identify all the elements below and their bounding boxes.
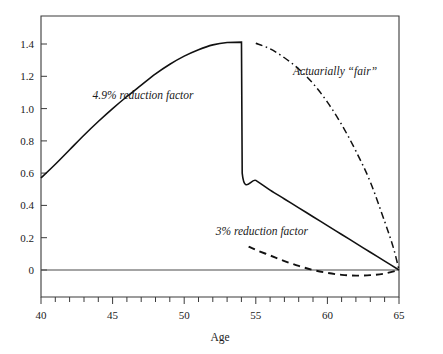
y-tick-label: 1.2 (20, 70, 34, 82)
line-chart: 1.4 1.2 1.0 0.8 0.6 0.4 0.2 0 (0, 0, 443, 354)
x-tick-label: 60 (322, 309, 334, 321)
chart-background (0, 0, 443, 354)
x-tick-label: 45 (107, 309, 119, 321)
x-tick-label: 65 (394, 309, 406, 321)
x-tick-label: 50 (179, 309, 191, 321)
chart-container: 1.4 1.2 1.0 0.8 0.6 0.4 0.2 0 (0, 0, 443, 354)
y-tick-label: 0 (29, 264, 35, 276)
annotation-label-reduction-3: 3% reduction factor (215, 225, 309, 238)
y-tick-label: 0.2 (20, 232, 34, 244)
y-tick-label: 0.4 (20, 199, 34, 211)
x-tick-label: 55 (250, 309, 262, 321)
x-axis-title: Age (210, 331, 229, 344)
y-tick-label: 1.0 (20, 103, 34, 115)
y-tick-label: 0.8 (20, 135, 34, 147)
y-tick-label: 1.4 (20, 38, 34, 50)
annotation-label-reduction-49: 4.9% reduction factor (93, 89, 194, 102)
x-tick-label: 40 (36, 309, 48, 321)
y-tick-label: 0.6 (20, 167, 34, 179)
annotation-label-actuarially-fair: Actuarially “fair” (292, 65, 377, 78)
